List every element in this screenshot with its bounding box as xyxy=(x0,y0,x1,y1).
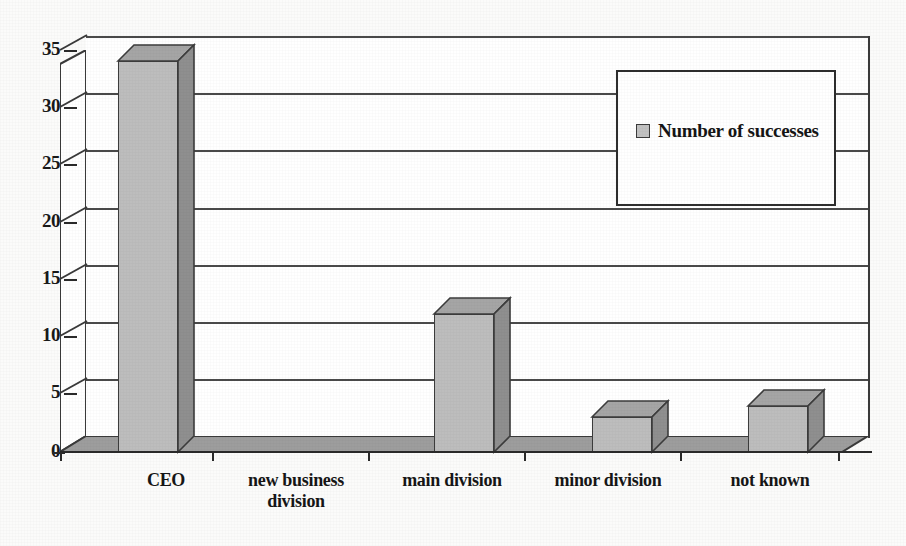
legend[interactable]: Number of successes xyxy=(616,70,836,206)
x-tick-2 xyxy=(368,452,370,461)
bar-minor-division[interactable] xyxy=(592,401,652,452)
y-tick-slant-35 xyxy=(60,33,87,52)
bar-minor-division-face xyxy=(592,417,652,452)
y-tick-label-5: 5 xyxy=(14,381,60,403)
y-tick-slant-30 xyxy=(60,90,87,109)
gridline-15 xyxy=(86,265,868,267)
y-tick-label-35: 35 xyxy=(14,38,60,60)
bar-minor-division-side xyxy=(652,401,670,452)
x-label-minor-division-line1: minor division xyxy=(528,470,688,491)
x-label-new-business-division-line2: division xyxy=(216,491,376,512)
x-label-main-division: main division xyxy=(372,470,532,491)
legend-entry-label: Number of successes xyxy=(658,120,819,142)
y-tick-slant-25 xyxy=(60,147,87,166)
x-label-not-known-line1: not known xyxy=(690,470,850,491)
x-tick-3 xyxy=(524,452,526,461)
y-tick-dash-0 xyxy=(52,452,65,454)
y-tick-label-25: 25 xyxy=(14,152,60,174)
x-tick-5 xyxy=(838,452,840,461)
y-tick-label-15: 15 xyxy=(14,267,60,289)
x-label-not-known: not known xyxy=(690,470,850,491)
bar-main-division-side xyxy=(494,298,512,452)
bar-ceo-face xyxy=(118,61,178,452)
gridline-20 xyxy=(86,208,868,210)
y-tick-slant-5 xyxy=(60,376,87,395)
y-tick-label-20: 20 xyxy=(14,210,60,232)
y-tick-label-0: 0 xyxy=(14,440,60,462)
y-tick-label-30: 30 xyxy=(14,95,60,117)
bar-ceo-side xyxy=(178,45,196,452)
x-label-minor-division: minor division xyxy=(528,470,688,491)
bar-not-known-side xyxy=(808,390,826,452)
x-label-new-business-division-line1: new business xyxy=(216,470,376,491)
bar-not-known-face xyxy=(748,406,808,452)
gridline-35 xyxy=(86,36,868,38)
legend-swatch-icon xyxy=(636,124,650,138)
legend-entry[interactable]: Number of successes xyxy=(636,120,826,142)
y-tick-slant-15 xyxy=(60,262,87,281)
bar-chart: 35 30 25 20 15 10 5 0 Number of successe… xyxy=(0,0,906,546)
bar-ceo[interactable] xyxy=(118,45,178,452)
bar-not-known[interactable] xyxy=(748,390,808,452)
x-label-main-division-line1: main division xyxy=(372,470,532,491)
y-tick-slant-10 xyxy=(60,319,87,338)
y-tick-label-10: 10 xyxy=(14,324,60,346)
x-label-new-business-division: new business division xyxy=(216,470,376,512)
y-tick-slant-20 xyxy=(60,205,87,224)
x-tick-1 xyxy=(212,452,214,461)
x-tick-4 xyxy=(680,452,682,461)
x-axis-line xyxy=(60,451,872,453)
bar-main-division[interactable] xyxy=(434,298,494,452)
bar-main-division-face xyxy=(434,314,494,452)
